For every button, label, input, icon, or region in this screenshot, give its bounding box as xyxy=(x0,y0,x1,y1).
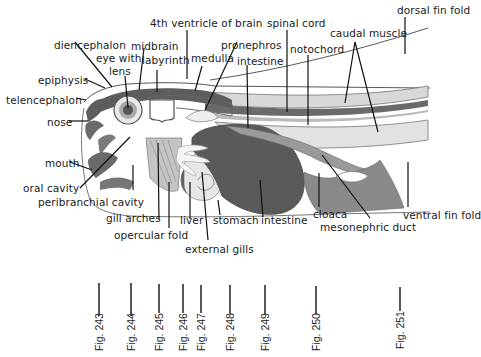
label-mesonephric-duct: mesonephric duct xyxy=(320,222,416,233)
label-telencephalon: telencephalon xyxy=(6,95,82,106)
label-eye-with: eye with xyxy=(96,53,142,64)
label-cloaca: cloaca xyxy=(313,209,347,220)
label-ventral-fin-fold: ventral fin fold xyxy=(403,210,481,221)
fig-marker-251: Fig. 251 xyxy=(395,311,406,349)
label-oral-cavity: oral cavity xyxy=(23,183,79,194)
fig-marker-249: Fig. 249 xyxy=(260,313,271,351)
label-dorsal-fin-fold: dorsal fin fold xyxy=(397,5,470,16)
fig-marker-248: Fig. 248 xyxy=(225,313,236,351)
label-nose: nose xyxy=(47,117,72,128)
fig-marker-245: Fig. 245 xyxy=(154,313,165,351)
figure-marker-lines xyxy=(99,283,400,316)
label-pronephros: pronephros xyxy=(221,40,282,51)
label-gill-arches: gill arches xyxy=(106,213,161,224)
label-spinal-cord: spinal cord xyxy=(267,18,326,29)
label-epiphysis: epiphysis xyxy=(38,75,88,86)
fig-marker-247: Fig. 247 xyxy=(196,313,207,351)
label-midbrain: midbrain xyxy=(131,41,179,52)
nose xyxy=(85,120,104,140)
caudal-muscle-upper xyxy=(205,86,428,108)
fig-marker-246: Fig. 246 xyxy=(178,313,189,351)
label-labyrinth: labyrinth xyxy=(142,55,190,66)
label-peribranchial-cavity: peribranchial cavity xyxy=(38,197,144,208)
label-4th-ventricle: 4th ventricle of brain xyxy=(150,18,263,29)
label-opercular-fold: opercular fold xyxy=(114,230,188,241)
label-lens: lens xyxy=(109,66,131,77)
label-intestine-bottom: intestine xyxy=(261,215,308,226)
fig-marker-250: Fig. 250 xyxy=(311,313,322,351)
label-notochord: notochord xyxy=(290,44,344,55)
labyrinth xyxy=(150,100,174,122)
label-liver: liver xyxy=(180,215,203,226)
label-stomach: stomach xyxy=(213,215,259,226)
label-medulla: medulla xyxy=(191,53,234,64)
fig-marker-244: Fig. 244 xyxy=(126,313,137,351)
label-diencephalon: diencephalon xyxy=(54,40,126,51)
label-caudal-muscle: caudal muscle xyxy=(330,28,407,39)
label-mouth: mouth xyxy=(45,158,80,169)
fig-marker-243: Fig. 243 xyxy=(94,313,105,351)
label-intestine-top: intestine xyxy=(237,56,284,67)
label-external-gills: external gills xyxy=(185,244,254,255)
